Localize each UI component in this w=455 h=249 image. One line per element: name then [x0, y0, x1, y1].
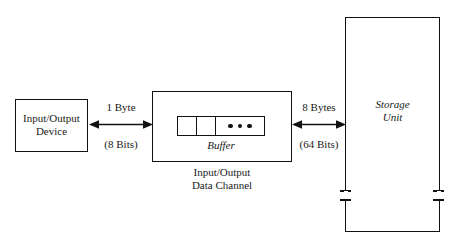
channel-to-storage-top-label: 8 Bytes	[288, 101, 350, 113]
data-channel-caption: Input/Output Data Channel	[152, 166, 292, 192]
storage-unit-label: Storage Unit	[345, 98, 440, 124]
buffer-strip	[177, 116, 265, 136]
device-to-channel-top-label: 1 Byte	[89, 101, 153, 113]
diagram-canvas: Input/Output Device 1 Byte (8 Bits) Buff…	[0, 0, 455, 249]
storage-unit-box	[345, 17, 440, 232]
channel-to-storage-bottom-label: (64 Bits)	[286, 138, 352, 150]
break-mark-tick	[340, 199, 351, 201]
break-mark-tick	[433, 199, 444, 201]
io-device-label: Input/Output Device	[15, 112, 88, 138]
buffer-label: Buffer	[177, 139, 265, 152]
device-to-channel-bottom-label: (8 Bits)	[86, 138, 156, 150]
buffer-cell	[178, 117, 197, 135]
buffer-cell	[216, 117, 264, 135]
break-mark-gap	[344, 191, 348, 199]
break-mark-gap	[437, 191, 441, 199]
device-to-channel-arrow	[89, 118, 153, 131]
ellipsis-dots-icon	[228, 124, 252, 129]
channel-to-storage-arrow	[292, 118, 346, 131]
buffer-cell	[197, 117, 216, 135]
